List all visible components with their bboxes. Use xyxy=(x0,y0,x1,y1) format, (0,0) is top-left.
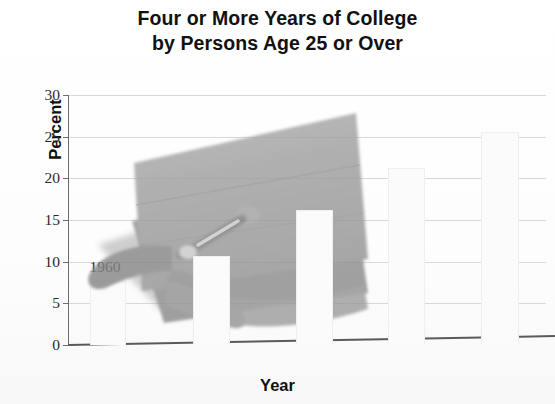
y-tick-label-25: 25 xyxy=(26,128,60,146)
bar-1990[interactable] xyxy=(388,168,425,346)
y-tick-label-15: 15 xyxy=(26,211,60,229)
chart-title-line-1: Four or More Years of College xyxy=(0,6,555,31)
bar-1970[interactable] xyxy=(193,256,230,345)
y-tick-label-30: 30 xyxy=(26,86,60,104)
y-tick-mark-10 xyxy=(63,262,69,263)
chart-title: Four or More Years of College by Persons… xyxy=(0,6,555,56)
bar-1960[interactable] xyxy=(90,281,126,345)
x-tick-label-1960: 1960 xyxy=(70,258,140,276)
bar-1980[interactable] xyxy=(296,210,333,345)
bar-2000[interactable] xyxy=(481,132,519,345)
chart-plot-area: 30 25 20 15 10 5 0 xyxy=(68,95,546,345)
y-tick-mark-5 xyxy=(63,303,69,304)
y-tick-mark-30 xyxy=(63,95,69,96)
y-tick-mark-15 xyxy=(63,220,69,221)
x-axis-title: Year xyxy=(0,376,555,395)
y-tick-label-5: 5 xyxy=(26,294,60,312)
y-tick-mark-25 xyxy=(63,137,69,138)
y-tick-mark-0 xyxy=(63,345,69,346)
y-tick-mark-20 xyxy=(63,178,69,179)
y-tick-label-20: 20 xyxy=(26,169,60,187)
y-tick-label-0: 0 xyxy=(26,336,60,354)
y-tick-label-10: 10 xyxy=(26,253,60,271)
chart-title-line-2: by Persons Age 25 or Over xyxy=(0,31,555,56)
